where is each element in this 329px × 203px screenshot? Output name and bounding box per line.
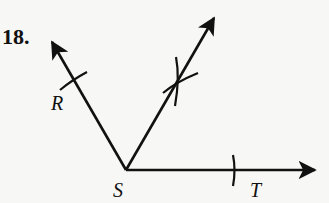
point-label-T: T xyxy=(250,179,263,201)
arc-mark-R xyxy=(60,72,87,90)
point-label-S: S xyxy=(113,179,123,201)
ray-bisector xyxy=(126,18,214,170)
angle-diagram: R S T xyxy=(0,0,329,203)
point-label-R: R xyxy=(50,92,63,114)
